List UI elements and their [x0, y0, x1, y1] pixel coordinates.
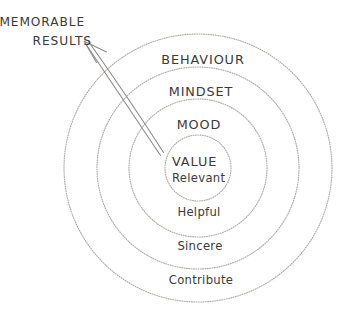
core-labels-group: VALUE Relevant [172, 154, 225, 185]
memorable-results-arrow [84, 41, 163, 155]
ring-label-sincere: Sincere [177, 239, 222, 253]
arrow-shaft-stroke-a [86, 44, 161, 156]
ring-labels-group: BEHAVIOUR MINDSET MOOD Helpful Sincere C… [161, 52, 244, 287]
ring-label-behaviour: BEHAVIOUR [161, 52, 244, 67]
core-label-relevant: Relevant [172, 171, 225, 185]
ring-label-mood: MOOD [177, 117, 222, 132]
callout-memorable-results: MEMORABLE RESULTS [0, 15, 92, 48]
core-label-value: VALUE [172, 154, 217, 169]
diagram-canvas: MEMORABLE RESULTS BEHAVIOUR MINDSET MOOD… [0, 0, 346, 318]
callout-line-2: RESULTS [33, 34, 92, 48]
ring-label-contribute: Contribute [169, 273, 233, 287]
concentric-rings-diagram: MEMORABLE RESULTS BEHAVIOUR MINDSET MOOD… [0, 0, 346, 318]
ring-label-helpful: Helpful [177, 205, 220, 219]
callout-line-1: MEMORABLE [0, 15, 85, 29]
ring-label-mindset: MINDSET [169, 84, 234, 99]
